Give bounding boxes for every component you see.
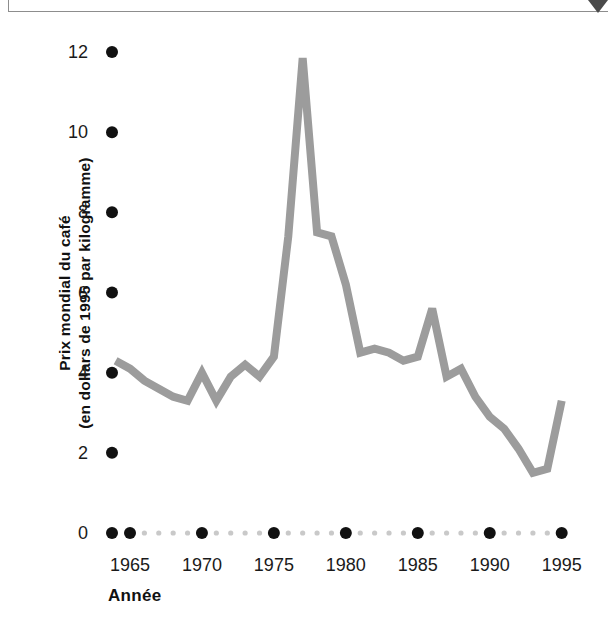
y-axis-major-tick-dot [106, 527, 118, 539]
y-axis-tick-label: 8 [48, 203, 88, 221]
x-axis-major-tick-dot [556, 527, 568, 539]
y-axis-major-tick-dot [106, 287, 118, 299]
y-axis-tick-label: 0 [48, 524, 88, 542]
y-axis-major-ticks [106, 46, 118, 539]
x-axis-tick-label: 1980 [311, 556, 381, 574]
x-axis-tick-label: 1965 [95, 556, 165, 574]
x-axis-minor-tick-dot [358, 530, 363, 535]
y-axis-tick-label: 10 [48, 123, 88, 141]
x-axis-minor-tick-dot [473, 530, 478, 535]
y-axis-tick-label: 2 [48, 444, 88, 462]
x-axis-minor-tick-dot [329, 530, 334, 535]
y-axis-major-tick-dot [106, 206, 118, 218]
y-axis-major-tick-dot [106, 447, 118, 459]
y-axis-major-tick-dot [106, 126, 118, 138]
x-axis-tick-label: 1985 [383, 556, 453, 574]
x-axis-minor-tick-dot [401, 530, 406, 535]
x-axis-major-tick-dot [484, 527, 496, 539]
x-axis-minor-tick-dot [228, 530, 233, 535]
x-axis-minor-tick-dot [444, 530, 449, 535]
x-axis-minor-tick-dot [214, 530, 219, 535]
x-axis-minor-tick-dot [386, 530, 391, 535]
x-axis-minor-tick-dot [286, 530, 291, 535]
x-axis-minor-tick-dot [142, 530, 147, 535]
y-axis-tick-label: 12 [48, 43, 88, 61]
x-axis-major-ticks [124, 527, 568, 539]
x-axis-minor-tick-dot [314, 530, 319, 535]
x-axis-minor-tick-dot [243, 530, 248, 535]
x-axis-minor-tick-dot [430, 530, 435, 535]
x-axis-major-tick-dot [268, 527, 280, 539]
x-axis-tick-label: 1995 [527, 556, 597, 574]
price-line-series [116, 58, 562, 473]
x-axis-minor-tick-dot [171, 530, 176, 535]
x-axis-minor-tick-dot [300, 530, 305, 535]
x-axis-major-tick-dot [196, 527, 208, 539]
x-axis-tick-label: 1970 [167, 556, 237, 574]
x-axis-title: Année [108, 586, 161, 606]
y-axis-major-tick-dot [106, 46, 118, 58]
x-axis-minor-tick-dot [156, 530, 161, 535]
x-axis-minor-tick-dot [545, 530, 550, 535]
x-axis-minor-tick-dot [185, 530, 190, 535]
x-axis-minor-tick-dot [530, 530, 535, 535]
x-axis-tick-label: 1990 [455, 556, 525, 574]
x-axis-minor-tick-dot [516, 530, 521, 535]
x-axis-major-tick-dot [124, 527, 136, 539]
y-axis-tick-label: 4 [48, 364, 88, 382]
x-axis-minor-tick-dot [502, 530, 507, 535]
chart-page: Prix mondial du café (en dollars de 1995… [0, 0, 616, 618]
x-axis-minor-tick-dot [458, 530, 463, 535]
x-axis-minor-tick-dot [372, 530, 377, 535]
x-axis-major-tick-dot [340, 527, 352, 539]
y-axis-tick-label: 6 [48, 284, 88, 302]
y-axis-major-tick-dot [106, 367, 118, 379]
x-axis-tick-label: 1975 [239, 556, 309, 574]
x-axis-major-tick-dot [412, 527, 424, 539]
x-axis-minor-tick-dot [257, 530, 262, 535]
